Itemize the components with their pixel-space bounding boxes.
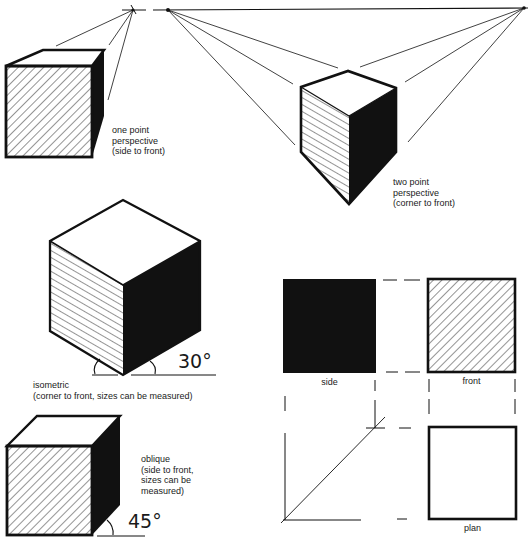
plan-view-caption: plan [429, 523, 516, 534]
isometric-cube [50, 200, 216, 375]
plan-view [429, 427, 516, 519]
orthographic-projection [281, 279, 516, 523]
one-point-label: one pointperspective(side to front) [112, 125, 165, 157]
oblique-cube [7, 416, 145, 536]
isometric-label: isometric(corner to front, sizes can be … [33, 380, 193, 401]
front-view-caption: front [428, 376, 515, 387]
side-view [283, 279, 376, 373]
side-view-caption: side [283, 377, 376, 388]
oblique-label: oblique(side to front,sizes can bemeasur… [141, 454, 194, 496]
two-point-perspective-cube [153, 6, 528, 204]
cube-drawings-canvas [0, 0, 530, 544]
two-point-label: two pointperspective(corner to front) [393, 177, 455, 209]
front-view [428, 279, 515, 372]
oblique-angle-label: 45° [128, 510, 162, 532]
isometric-angle-label: 30° [178, 350, 212, 372]
